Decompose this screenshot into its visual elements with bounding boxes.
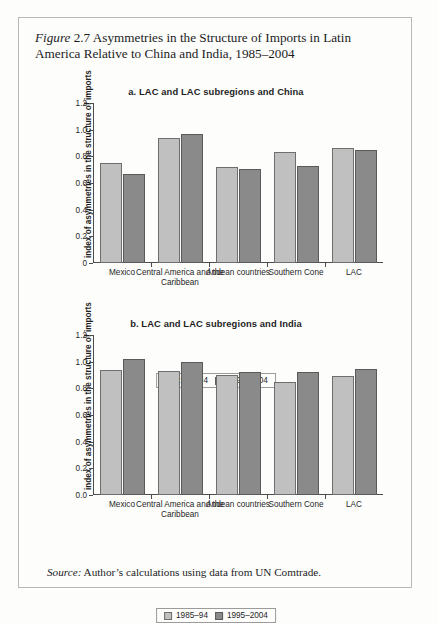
chart-panel-b: b. LAC and LAC subregions and India inde…: [19, 318, 413, 566]
x-axis-tick: [209, 263, 210, 267]
figure-frame: Figure 2.7 Asymmetries in the Structure …: [18, 17, 412, 588]
bar: [297, 372, 319, 495]
y-axis-tick: [89, 468, 93, 469]
y-axis-tick: [89, 156, 93, 157]
legend-swatch-icon: [215, 612, 223, 620]
legend-item-1995-2004: 1995–2004: [215, 611, 268, 620]
bar: [100, 163, 122, 263]
y-axis-tick-label: 1.0: [76, 357, 87, 366]
y-axis-tick: [89, 263, 93, 264]
y-axis-tick-label: 0.6: [76, 179, 87, 188]
figure-label: Figure: [35, 30, 70, 45]
chart-a-y-axis: [93, 103, 94, 263]
y-axis-tick-label: 0.2: [76, 464, 87, 473]
y-axis-tick: [89, 130, 93, 131]
x-axis-category-label: LAC: [306, 268, 402, 278]
x-axis-tick: [209, 495, 210, 499]
bar: [158, 138, 180, 263]
y-axis-tick: [89, 210, 93, 211]
bar: [274, 382, 296, 495]
y-axis-tick-label: 0.4: [76, 437, 87, 446]
legend-label: 1995–2004: [227, 611, 268, 620]
y-axis-tick-label: 1.2: [76, 99, 87, 108]
x-axis-tick: [151, 495, 152, 499]
bar-group: [332, 103, 377, 263]
bar-group: [216, 103, 261, 263]
bar: [332, 376, 354, 495]
figure-caption: Figure 2.7 Asymmetries in the Structure …: [35, 30, 395, 62]
bar: [332, 148, 354, 263]
y-axis-tick-label: 0.0: [76, 491, 87, 500]
y-axis-tick: [89, 415, 93, 416]
source-label: Source:: [47, 566, 81, 578]
y-axis-tick-label: 0: [82, 259, 87, 268]
legend-label: 1985–94: [176, 611, 208, 620]
bar-group: [158, 335, 203, 495]
x-axis-tick: [325, 495, 326, 499]
bar: [216, 375, 238, 495]
x-axis-tick: [325, 263, 326, 267]
chart-b-plot-area: index of asymmetries in the structure of…: [93, 335, 383, 495]
bar: [274, 152, 296, 263]
bar: [355, 369, 377, 495]
y-axis-tick: [89, 183, 93, 184]
bar-group: [216, 335, 261, 495]
y-axis-tick-label: 0.8: [76, 384, 87, 393]
bar: [181, 362, 203, 495]
chart-b-y-axis: [93, 335, 94, 495]
x-axis-tick: [151, 263, 152, 267]
y-axis-tick: [89, 103, 93, 104]
y-axis-tick: [89, 442, 93, 443]
bar: [216, 167, 238, 263]
y-axis-tick-label: 1.0: [76, 125, 87, 134]
bar-group: [332, 335, 377, 495]
bar: [297, 166, 319, 263]
bar: [123, 359, 145, 495]
y-axis-tick-label: 1.2: [76, 331, 87, 340]
x-axis-tick: [267, 263, 268, 267]
bar: [239, 169, 261, 263]
y-axis-tick: [89, 236, 93, 237]
x-axis-tick: [267, 495, 268, 499]
legend-swatch-icon: [164, 612, 172, 620]
bar: [100, 370, 122, 495]
figure-number: 2.7: [74, 30, 90, 45]
y-axis-tick-label: 0.6: [76, 411, 87, 420]
bar-group: [100, 103, 145, 263]
source-note: Source: Author’s calculations using data…: [47, 566, 397, 578]
y-axis-tick: [89, 495, 93, 496]
source-text: Author’s calculations using data from UN…: [84, 566, 321, 578]
bar-group: [274, 335, 319, 495]
bar: [123, 174, 145, 263]
chart-a-plot-area: index of asymmetries in the structure of…: [93, 103, 383, 263]
x-axis-category-label: LAC: [306, 500, 402, 510]
legend-item-1985-94: 1985–94: [164, 611, 208, 620]
y-axis-tick: [89, 362, 93, 363]
bar-group: [100, 335, 145, 495]
chart-panel-a: a. LAC and LAC subregions and China inde…: [19, 86, 413, 326]
chart-b-title: b. LAC and LAC subregions and India: [19, 318, 413, 329]
y-axis-tick-label: 0.2: [76, 232, 87, 241]
chart-b-legend: 1985–94 1995–2004: [156, 608, 276, 623]
y-axis-tick-label: 0.8: [76, 152, 87, 161]
bar: [158, 371, 180, 495]
bar: [355, 150, 377, 263]
chart-a-title: a. LAC and LAC subregions and China: [19, 86, 413, 97]
y-axis-tick-label: 0.4: [76, 205, 87, 214]
bar-group: [158, 103, 203, 263]
bar-group: [274, 103, 319, 263]
y-axis-tick: [89, 388, 93, 389]
bar: [181, 134, 203, 263]
bar: [239, 372, 261, 495]
y-axis-tick: [89, 335, 93, 336]
